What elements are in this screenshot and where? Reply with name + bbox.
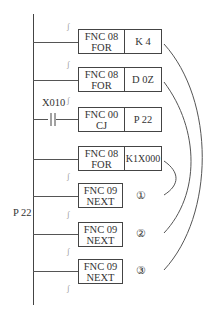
outer-loop-arc [164, 44, 202, 270]
middle-loop-arc [164, 82, 191, 233]
loop-nesting-arcs [0, 0, 219, 319]
inner-loop-arc [164, 161, 176, 195]
